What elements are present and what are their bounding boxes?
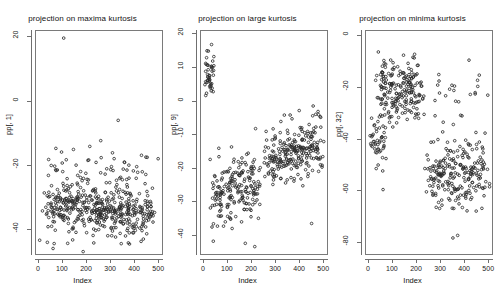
x-tick [110,259,111,263]
y-tick-label: -20 [342,76,349,94]
panel-title: projection on large kurtosis [165,14,330,23]
y-tick [192,67,196,68]
y-tick-label: 0 [12,90,19,108]
y-tick-label: -60 [342,180,349,198]
panel-title: projection on minima kurtosis [330,14,495,23]
x-axis-line [35,259,163,260]
x-tick [203,259,204,263]
y-tick-label: -40 [12,219,19,237]
y-tick [357,242,361,243]
y-tick [27,36,31,37]
x-tick-label: 100 [51,265,73,272]
x-tick [323,259,324,263]
y-tick [192,201,196,202]
x-tick-label: 200 [405,265,427,272]
data-points [201,31,327,254]
x-axis-label: Index [330,276,495,285]
x-tick [86,259,87,263]
x-tick [227,259,228,263]
scatter-panel-2: projection on large kurtosis20100-10-20-… [165,0,330,294]
x-tick-label: 0 [357,265,379,272]
x-axis-label: Index [0,276,165,285]
x-tick-label: 300 [429,265,451,272]
plot-area [35,30,163,255]
y-tick-label: -40 [342,128,349,146]
x-tick-label: 200 [75,265,97,272]
y-tick-label: -10 [177,124,184,142]
y-tick-label: 10 [177,56,184,74]
x-tick [368,259,369,263]
y-tick [27,229,31,230]
x-tick-label: 400 [123,265,145,272]
x-tick-label: 400 [453,265,475,272]
plot-area [200,30,328,255]
x-axis-line [365,259,493,260]
x-tick [299,259,300,263]
x-tick [488,259,489,263]
y-axis-label: pp[, 1] [4,105,13,145]
x-axis-line [200,259,328,260]
x-tick [62,259,63,263]
x-tick [392,259,393,263]
x-tick-label: 300 [264,265,286,272]
x-tick-label: 500 [477,265,496,272]
y-tick [357,35,361,36]
y-tick-label: -40 [177,224,184,242]
x-tick [134,259,135,263]
y-tick-label: 20 [177,23,184,41]
x-tick [440,259,441,263]
x-tick [158,259,159,263]
x-tick-label: 100 [381,265,403,272]
scatter-panel-1: projection on maxima kurtosis200-20-40pp… [0,0,165,294]
data-points [366,31,492,254]
y-axis-line [196,30,197,255]
scatter-panel-3: projection on minima kurtosis0-20-40-60-… [330,0,495,294]
x-tick [416,259,417,263]
data-points [36,31,162,254]
y-tick [192,235,196,236]
y-tick-label: 0 [342,25,349,43]
panel-title: projection on maxima kurtosis [0,14,165,23]
x-tick-label: 0 [192,265,214,272]
x-tick [464,259,465,263]
y-tick [27,101,31,102]
x-tick [275,259,276,263]
y-tick [192,101,196,102]
y-axis-line [31,30,32,255]
y-tick-label: -20 [12,155,19,173]
x-tick-label: 0 [27,265,49,272]
y-axis-label: pp[, 32] [334,105,343,145]
y-tick-label: 0 [177,90,184,108]
y-tick [192,33,196,34]
y-tick [192,134,196,135]
y-tick [357,87,361,88]
y-axis-line [361,30,362,255]
y-tick [357,139,361,140]
y-tick-label: -20 [177,157,184,175]
y-tick-label: -80 [342,232,349,250]
y-tick [27,165,31,166]
x-tick-label: 400 [288,265,310,272]
y-tick-label: -30 [177,191,184,209]
x-tick-label: 100 [216,265,238,272]
x-tick [251,259,252,263]
y-tick [357,190,361,191]
y-tick [192,168,196,169]
x-axis-label: Index [165,276,330,285]
y-axis-label: pp[, 9] [169,105,178,145]
plot-area [365,30,493,255]
scatterplot-figure: projection on maxima kurtosis200-20-40pp… [0,0,496,294]
x-tick-label: 300 [99,265,121,272]
y-tick-label: 20 [12,26,19,44]
x-tick-label: 200 [240,265,262,272]
x-tick [38,259,39,263]
